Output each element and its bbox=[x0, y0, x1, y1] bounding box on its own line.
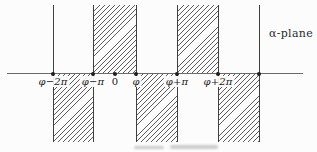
axis-point-dot bbox=[134, 72, 138, 76]
axis-tick-label: φ−2π bbox=[36, 76, 69, 87]
axis-point-dot bbox=[113, 72, 117, 76]
cropped-caption-smudge bbox=[134, 146, 164, 149]
cropped-caption-smudge bbox=[170, 145, 218, 149]
axis-point-dot bbox=[91, 72, 95, 76]
axis-point-dot bbox=[216, 72, 220, 76]
axis-point-dot bbox=[51, 72, 55, 76]
hatched-region-above bbox=[93, 5, 137, 73]
axis-tick-label: φ bbox=[130, 76, 141, 87]
axis-point-dot bbox=[175, 72, 179, 76]
axis-tick-label: φ+2π bbox=[201, 76, 234, 87]
axis-tick-label: φ−π bbox=[80, 76, 107, 87]
alpha-plane-branch-strips-figure: φ−2πφ−π0φφ+πφ+2π α-plane bbox=[0, 0, 317, 152]
plane-label: α-plane bbox=[269, 28, 313, 40]
axis-point-dot bbox=[257, 72, 261, 76]
axis-tick-label: φ+π bbox=[164, 76, 191, 87]
hatched-region-above bbox=[177, 5, 219, 73]
strip-boundary-line bbox=[53, 5, 54, 73]
axis-tick-label: 0 bbox=[110, 76, 121, 87]
strip-boundary-line bbox=[259, 5, 260, 73]
